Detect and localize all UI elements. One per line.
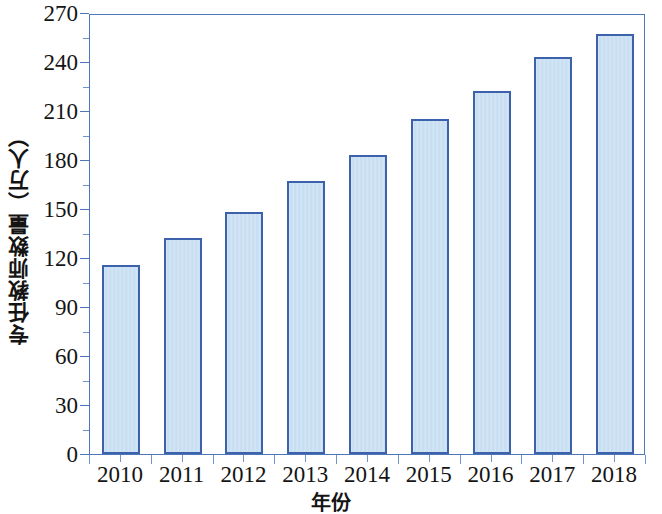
- y-axis-minor-tick: [83, 38, 89, 39]
- y-axis-minor-tick: [83, 185, 89, 186]
- x-axis-minor-tick: [305, 455, 306, 462]
- y-axis-tick-label: 0: [4, 443, 78, 466]
- y-axis-minor-tick: [83, 381, 89, 382]
- y-axis-minor-tick: [83, 430, 89, 431]
- y-axis-minor-tick: [83, 332, 89, 333]
- x-axis-tick-label: 2017: [517, 463, 587, 486]
- bar: [473, 91, 511, 454]
- bar: [102, 265, 140, 454]
- y-axis-tick: [80, 160, 89, 161]
- y-axis-tick-label: 270: [4, 2, 78, 25]
- x-axis-tick-label: 2013: [270, 463, 340, 486]
- y-axis-tick-label: 210: [4, 100, 78, 123]
- y-axis-tick: [80, 405, 89, 406]
- y-axis-tick-label: 120: [4, 247, 78, 270]
- y-axis-tick-label: 30: [4, 394, 78, 417]
- y-axis-tick-label: 240: [4, 51, 78, 74]
- bar-chart: 专任教师数量（万人） 0306090120150180210240270 年份 …: [0, 0, 662, 514]
- y-axis-tick: [80, 13, 89, 14]
- y-axis-minor-tick: [83, 283, 89, 284]
- bar: [225, 212, 263, 454]
- bar: [596, 34, 634, 454]
- x-axis-minor-tick: [552, 455, 553, 462]
- y-axis-tick-label: 150: [4, 198, 78, 221]
- x-axis-tick-label: 2018: [579, 463, 649, 486]
- bar: [349, 155, 387, 454]
- y-axis-tick: [80, 111, 89, 112]
- y-axis-minor-tick: [83, 234, 89, 235]
- x-axis-minor-tick: [614, 455, 615, 462]
- y-axis-tick: [80, 454, 89, 455]
- y-axis-tick: [80, 209, 89, 210]
- x-axis-tick-label: 2014: [332, 463, 402, 486]
- bar: [534, 57, 572, 454]
- x-axis-minor-tick: [491, 455, 492, 462]
- y-axis-tick: [80, 62, 89, 63]
- y-axis-tick-label: 90: [4, 296, 78, 319]
- y-axis-tick-label: 60: [4, 345, 78, 368]
- y-axis-tick-label: 180: [4, 149, 78, 172]
- x-axis-tick-label: 2010: [85, 463, 155, 486]
- y-axis-tick-labels: 0306090120150180210240270: [0, 0, 78, 514]
- x-axis-tick-label: 2015: [394, 463, 464, 486]
- y-axis-tick: [80, 356, 89, 357]
- y-axis-minor-tick: [83, 87, 89, 88]
- plot-area: [89, 14, 645, 455]
- x-axis-minor-tick: [120, 455, 121, 462]
- x-axis-minor-tick: [243, 455, 244, 462]
- y-axis-tick: [80, 258, 89, 259]
- x-axis-minor-tick: [429, 455, 430, 462]
- x-axis-minor-tick: [367, 455, 368, 462]
- x-axis-title: 年份: [0, 487, 662, 514]
- x-axis-minor-tick: [182, 455, 183, 462]
- x-axis-tick-label: 2016: [456, 463, 526, 486]
- x-axis-tick-label: 2011: [147, 463, 217, 486]
- bar: [287, 181, 325, 454]
- y-axis-tick: [80, 307, 89, 308]
- bar: [164, 238, 202, 454]
- y-axis-minor-tick: [83, 136, 89, 137]
- x-axis-tick-label: 2012: [208, 463, 278, 486]
- bar: [411, 119, 449, 454]
